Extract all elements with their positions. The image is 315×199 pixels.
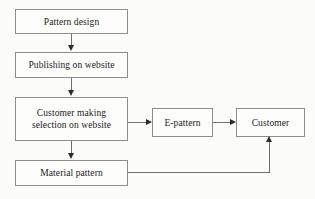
- edge-material-pattern-to-customer-horizontal-line: [128, 172, 270, 173]
- edge-pattern-design-to-publishing-arrow-icon: [68, 45, 74, 51]
- node-customer-making-selection-line2: selection on website: [29, 119, 114, 131]
- node-customer[interactable]: Customer: [236, 108, 305, 137]
- node-material-pattern-label: Material pattern: [37, 167, 106, 179]
- edge-customer-selection-to-e-pattern-arrow-icon: [146, 119, 152, 125]
- edge-material-pattern-to-customer-arrow-icon: [266, 136, 272, 142]
- node-pattern-design[interactable]: Pattern design: [15, 9, 128, 34]
- edge-customer-selection-to-e-pattern-line: [128, 122, 147, 123]
- edge-material-pattern-to-customer-vertical-line: [269, 142, 270, 173]
- node-material-pattern[interactable]: Material pattern: [15, 160, 128, 186]
- node-customer-making-selection-label: Customer making selection on website: [26, 107, 117, 131]
- node-customer-making-selection[interactable]: Customer making selection on website: [15, 97, 128, 141]
- node-publishing-on-website-label: Publishing on website: [25, 59, 117, 71]
- edge-publishing-to-customer-selection-arrow-icon: [68, 90, 74, 96]
- edge-e-pattern-to-customer-line: [213, 122, 231, 123]
- node-publishing-on-website[interactable]: Publishing on website: [15, 52, 128, 78]
- node-e-pattern-label: E-pattern: [161, 117, 203, 129]
- node-e-pattern[interactable]: E-pattern: [152, 108, 213, 137]
- flowchart-canvas: Pattern design Publishing on website Cus…: [0, 0, 315, 199]
- node-customer-making-selection-line1: Customer making: [29, 107, 114, 119]
- node-pattern-design-label: Pattern design: [41, 16, 103, 28]
- edge-customer-selection-to-material-pattern-arrow-icon: [68, 153, 74, 159]
- node-customer-label: Customer: [249, 117, 293, 129]
- edge-e-pattern-to-customer-arrow-icon: [230, 119, 236, 125]
